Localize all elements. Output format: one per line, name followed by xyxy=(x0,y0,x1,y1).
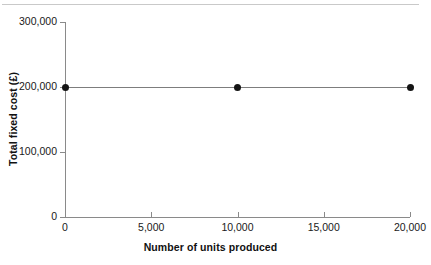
y-tick-mark xyxy=(60,217,65,218)
x-tick-mark xyxy=(65,212,66,217)
data-point xyxy=(407,84,414,91)
x-axis-line xyxy=(65,217,410,218)
x-tick-mark xyxy=(151,212,152,217)
x-axis-title: Number of units produced xyxy=(0,241,421,253)
x-tick-label: 20,000 xyxy=(375,221,431,233)
x-tick-label: 15,000 xyxy=(289,221,359,233)
y-axis-title: Total fixed cost (£) xyxy=(7,49,19,189)
y-tick-label-wrap: 300,000 xyxy=(0,16,57,27)
y-axis-line xyxy=(65,22,66,218)
x-tick-label: 0 xyxy=(30,221,100,233)
series-line-segment xyxy=(65,87,238,88)
y-tick-mark xyxy=(60,152,65,153)
x-tick-mark xyxy=(238,212,239,217)
data-point xyxy=(62,84,69,91)
data-point xyxy=(234,84,241,91)
x-tick-label: 5,000 xyxy=(116,221,186,233)
series-line-segment xyxy=(238,87,411,88)
x-tick-mark xyxy=(324,212,325,217)
y-tick-label: 300,000 xyxy=(3,16,57,27)
y-tick-mark xyxy=(60,22,65,23)
x-tick-label: 10,000 xyxy=(203,221,273,233)
x-tick-mark xyxy=(410,212,411,217)
page-top-rule xyxy=(2,4,419,5)
